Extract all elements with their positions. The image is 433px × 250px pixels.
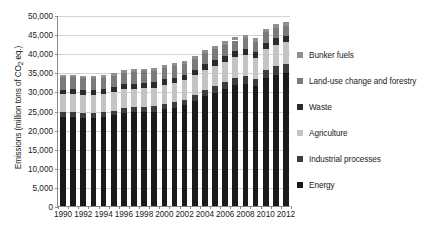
legend-item[interactable]: Waste bbox=[297, 94, 416, 120]
bar-segment bbox=[192, 70, 198, 76]
bar-segment bbox=[253, 42, 259, 53]
bar-segment bbox=[131, 84, 137, 89]
bar-segment bbox=[141, 69, 147, 72]
bar-segment bbox=[222, 56, 228, 62]
bar-segment bbox=[263, 29, 269, 33]
bar-segment bbox=[283, 73, 289, 206]
bar-column bbox=[202, 50, 208, 206]
bar-segment bbox=[172, 63, 178, 66]
bar-segment bbox=[273, 24, 279, 28]
bar-segment bbox=[192, 101, 198, 206]
bar-segment bbox=[162, 68, 168, 79]
bar-segment bbox=[172, 108, 178, 206]
x-tick-mark bbox=[169, 206, 170, 209]
legend-item[interactable]: Energy bbox=[297, 172, 416, 198]
bar-column bbox=[232, 37, 238, 206]
bar-segment bbox=[232, 57, 238, 78]
bar-segment bbox=[111, 76, 117, 88]
bar-segment bbox=[202, 53, 208, 64]
y-tick-label: 0 bbox=[48, 203, 53, 212]
legend-item[interactable]: Industrial processes bbox=[297, 146, 416, 172]
bar-segment bbox=[111, 111, 117, 116]
legend-label: Industrial processes bbox=[309, 155, 381, 164]
bar-segment bbox=[101, 117, 107, 206]
bar-segment bbox=[121, 108, 127, 113]
bar-segment bbox=[273, 28, 279, 38]
bar-segment bbox=[212, 60, 218, 66]
bar-segment bbox=[283, 42, 289, 64]
bar-segment bbox=[91, 90, 97, 95]
bar-segment bbox=[212, 93, 218, 206]
legend-swatch-icon bbox=[297, 104, 303, 110]
x-tick-mark bbox=[240, 206, 241, 209]
bar-segment bbox=[212, 66, 218, 86]
y-tick-label: 50,000 bbox=[28, 12, 53, 21]
bar-segment bbox=[101, 89, 107, 94]
bar-segment bbox=[141, 71, 147, 83]
bar-segment bbox=[202, 64, 208, 70]
legend-item[interactable]: Agriculture bbox=[297, 120, 416, 146]
bar-segment bbox=[172, 83, 178, 102]
bar-segment bbox=[243, 35, 249, 39]
legend-label: Energy bbox=[309, 181, 335, 190]
bars-layer bbox=[58, 16, 290, 206]
bar-segment bbox=[283, 64, 289, 73]
bar-segment bbox=[222, 62, 228, 82]
x-tick-label: 2004 bbox=[196, 210, 214, 219]
y-tick-label: 20,000 bbox=[28, 126, 53, 135]
bar-segment bbox=[121, 113, 127, 206]
bar-segment bbox=[182, 61, 188, 64]
bar-column bbox=[101, 75, 107, 206]
bar-segment bbox=[151, 68, 157, 71]
bar-segment bbox=[60, 117, 66, 206]
bar-segment bbox=[141, 107, 147, 112]
x-tick-mark bbox=[220, 206, 221, 209]
legend-item[interactable]: Bunker fuels bbox=[297, 42, 416, 68]
bar-column bbox=[162, 65, 168, 206]
x-tick-mark bbox=[291, 206, 292, 209]
bar-column bbox=[222, 41, 228, 206]
bar-segment bbox=[131, 89, 137, 108]
bar-segment bbox=[111, 87, 117, 92]
y-axis-title-subscript: 2 bbox=[16, 62, 23, 65]
bar-segment bbox=[121, 84, 127, 89]
bar-segment bbox=[172, 66, 178, 77]
x-tick-mark bbox=[271, 206, 272, 209]
x-tick-mark bbox=[230, 206, 231, 209]
x-tick-mark bbox=[139, 206, 140, 209]
bar-column bbox=[141, 69, 147, 206]
bar-segment bbox=[172, 102, 178, 108]
bar-segment bbox=[121, 70, 127, 73]
bar-segment bbox=[273, 66, 279, 74]
bar-column bbox=[111, 73, 117, 206]
bar-segment bbox=[263, 43, 269, 49]
bar-column bbox=[212, 46, 218, 206]
x-tick-mark bbox=[78, 206, 79, 209]
bar-column bbox=[121, 70, 127, 206]
bar-segment bbox=[70, 89, 76, 94]
plot-area: 50,00045,00040,00035,00030,00025,00020,0… bbox=[57, 16, 290, 207]
x-tick-mark bbox=[210, 206, 211, 209]
legend-label: Agriculture bbox=[309, 129, 348, 138]
bar-segment bbox=[70, 75, 76, 77]
bar-segment bbox=[202, 96, 208, 206]
bar-segment bbox=[212, 46, 218, 49]
legend-item[interactable]: Land-use change and forestry bbox=[297, 68, 416, 94]
bar-segment bbox=[151, 71, 157, 82]
bar-segment bbox=[91, 118, 97, 206]
bar-segment bbox=[283, 26, 289, 36]
x-tick-mark bbox=[200, 206, 201, 209]
bar-segment bbox=[91, 76, 97, 78]
bar-column bbox=[253, 38, 259, 206]
bar-segment bbox=[263, 32, 269, 42]
bar-segment bbox=[212, 86, 218, 93]
bar-segment bbox=[202, 90, 208, 96]
bar-segment bbox=[273, 45, 279, 67]
bar-column bbox=[243, 35, 249, 206]
bar-segment bbox=[141, 112, 147, 206]
bar-segment bbox=[182, 64, 188, 75]
bar-column bbox=[192, 56, 198, 207]
bar-segment bbox=[101, 75, 107, 77]
bar-segment bbox=[243, 38, 249, 49]
bar-segment bbox=[182, 80, 188, 99]
